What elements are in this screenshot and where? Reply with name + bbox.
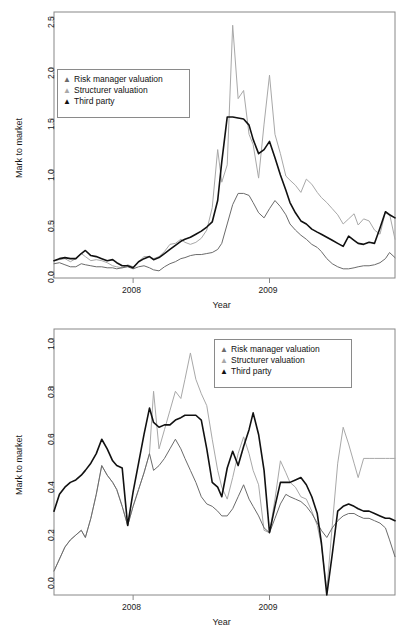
triangle-icon: ▲ bbox=[62, 96, 72, 107]
x-tick-label: 2009 bbox=[259, 602, 278, 612]
series-line-third-party bbox=[54, 408, 395, 595]
legend-label-third-party: Third party bbox=[231, 366, 272, 377]
legend-label-structurer: Structurer valuation bbox=[231, 355, 305, 366]
legend-label-risk-manager: Risk manager valuation bbox=[231, 344, 320, 355]
top-chart-y-axis-title: Mark to market bbox=[14, 118, 24, 178]
legend-item-third-party: ▲ Third party bbox=[219, 366, 345, 377]
y-tick-label: 1.0 bbox=[46, 338, 56, 350]
y-tick-label: 0.8 bbox=[46, 386, 56, 398]
legend-item-structurer: ▲ Structurer valuation bbox=[62, 85, 183, 96]
series-line-third-party bbox=[54, 117, 395, 268]
bottom-chart-panel: 0.00.20.40.60.81.0 20082009 Mark to mark… bbox=[0, 317, 406, 634]
top-chart-plot bbox=[0, 0, 406, 317]
triangle-icon: ▲ bbox=[219, 366, 229, 377]
triangle-icon: ▲ bbox=[62, 85, 72, 96]
x-tick-label: 2008 bbox=[122, 285, 141, 295]
y-tick-label: 1.0 bbox=[46, 169, 56, 181]
legend-item-structurer: ▲ Structurer valuation bbox=[219, 355, 345, 366]
legend-item-risk-manager: ▲ Risk manager valuation bbox=[62, 74, 183, 85]
y-tick-label: 0.6 bbox=[46, 434, 56, 446]
y-tick-label: 0.2 bbox=[46, 529, 56, 541]
legend-label-risk-manager: Risk manager valuation bbox=[74, 74, 163, 85]
figure-container: 0.00.51.01.52.02.5 20082009 Mark to mark… bbox=[0, 0, 406, 634]
legend-item-third-party: ▲ Third party bbox=[62, 96, 183, 107]
y-tick-label: 2.5 bbox=[46, 16, 56, 28]
y-tick-label: 0.5 bbox=[46, 220, 56, 232]
top-chart-x-axis-title: Year bbox=[213, 300, 231, 310]
y-tick-label: 2.0 bbox=[46, 67, 56, 79]
bottom-chart-y-axis-title: Mark to market bbox=[14, 435, 24, 495]
y-tick-label: 0.0 bbox=[46, 271, 56, 283]
series-line-structurer-valuation bbox=[54, 25, 395, 268]
top-chart-panel: 0.00.51.01.52.02.5 20082009 Mark to mark… bbox=[0, 0, 406, 317]
legend-label-structurer: Structurer valuation bbox=[74, 85, 148, 96]
bottom-chart-x-axis-title: Year bbox=[213, 617, 231, 627]
legend-label-third-party: Third party bbox=[74, 96, 115, 107]
y-tick-label: 0.0 bbox=[46, 577, 56, 589]
x-tick-label: 2009 bbox=[259, 285, 278, 295]
series-line-risk-manager-valuation bbox=[54, 439, 395, 571]
legend-item-risk-manager: ▲ Risk manager valuation bbox=[219, 344, 345, 355]
bottom-chart-legend: ▲ Risk manager valuation ▲ Structurer va… bbox=[214, 339, 352, 388]
top-chart-legend: ▲ Risk manager valuation ▲ Structurer va… bbox=[57, 69, 190, 118]
triangle-icon: ▲ bbox=[62, 74, 72, 85]
triangle-icon: ▲ bbox=[219, 355, 229, 366]
y-tick-label: 0.4 bbox=[46, 482, 56, 494]
x-tick-label: 2008 bbox=[122, 602, 141, 612]
y-tick-label: 1.5 bbox=[46, 118, 56, 130]
triangle-icon: ▲ bbox=[219, 344, 229, 355]
